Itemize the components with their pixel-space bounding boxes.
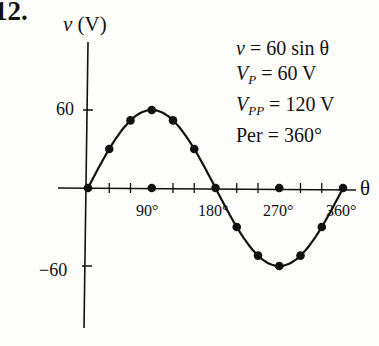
data-point: [296, 251, 305, 260]
data-point: [232, 223, 241, 232]
data-point: [190, 145, 199, 154]
axis-marker: [275, 184, 284, 193]
x-axis: [58, 188, 356, 190]
data-point: [169, 116, 178, 125]
data-point: [339, 184, 348, 193]
data-point: [317, 223, 326, 232]
axis-marker: [147, 184, 156, 193]
data-point: [126, 116, 135, 125]
data-point: [275, 262, 284, 271]
data-point: [147, 106, 156, 115]
data-point: [84, 184, 93, 193]
data-point: [254, 251, 263, 260]
data-point: [105, 145, 114, 154]
data-point: [211, 184, 220, 193]
plot-area: [0, 0, 379, 346]
